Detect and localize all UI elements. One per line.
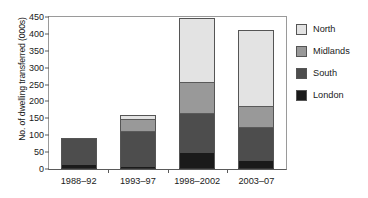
- bar-segment-south: [179, 113, 215, 153]
- bar-stack: [120, 115, 156, 169]
- x-tick-mark: [108, 169, 109, 173]
- legend-item[interactable]: North: [296, 18, 368, 40]
- legend-label: South: [313, 68, 337, 78]
- legend-item[interactable]: Midlands: [296, 40, 368, 62]
- bars-layer: [49, 17, 286, 169]
- bar-segment-south: [120, 131, 156, 167]
- x-tick-label: 2003–07: [238, 176, 274, 186]
- legend-item[interactable]: London: [296, 84, 368, 106]
- bar-segment-midlands: [238, 106, 274, 127]
- bar-segment-london: [61, 165, 97, 169]
- bar-segment-midlands: [120, 119, 156, 131]
- bar-segment-north: [179, 18, 215, 82]
- legend-label: London: [313, 90, 344, 100]
- x-tick-mark: [227, 169, 228, 173]
- x-tick-label: 1988–92: [61, 176, 97, 186]
- legend-swatch-icon: [296, 24, 307, 35]
- plot-area: 050100150200250300350400450 1988–921993–…: [48, 16, 287, 170]
- x-tick-label: 1998–2002: [174, 176, 220, 186]
- x-tick-label: 1993–97: [120, 176, 156, 186]
- legend-label: Midlands: [313, 46, 350, 56]
- bar-segment-london: [120, 167, 156, 169]
- bar-segment-south: [238, 127, 274, 161]
- legend-swatch-icon: [296, 68, 307, 79]
- bar-segment-london: [179, 153, 215, 169]
- bar-segment-midlands: [179, 82, 215, 113]
- bar-segment-london: [238, 161, 274, 169]
- legend-item[interactable]: South: [296, 62, 368, 84]
- bar-stack: [238, 30, 274, 169]
- bar-segment-north: [238, 30, 274, 106]
- bar-stack: [61, 138, 97, 169]
- bar-stack: [179, 18, 215, 169]
- chart-legend: NorthMidlandsSouthLondon: [296, 18, 368, 106]
- legend-label: North: [313, 24, 335, 34]
- legend-swatch-icon: [296, 46, 307, 57]
- y-axis-title: No. of dwelling transferred (000s): [17, 0, 27, 159]
- x-tick-mark: [168, 169, 169, 173]
- bar-segment-south: [61, 138, 97, 165]
- chart-figure: No. of dwelling transferred (000s) 05010…: [0, 0, 368, 198]
- legend-swatch-icon: [296, 90, 307, 101]
